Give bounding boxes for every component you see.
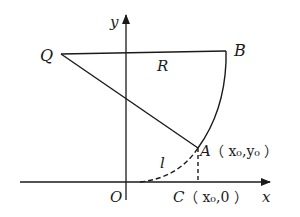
curve-l xyxy=(140,148,198,182)
segment-qa xyxy=(61,54,198,148)
y-axis-label: y xyxy=(109,13,119,31)
radius-label: R xyxy=(156,57,168,75)
origin-label: O xyxy=(110,188,122,206)
point-q-label: Q xyxy=(40,46,53,65)
arc-ba xyxy=(198,51,226,148)
curve-l-label: l xyxy=(160,154,165,172)
diagram-canvas: y x O Q B R A （ x₀,y₀ ） l C （ x₀,0 ） xyxy=(0,0,300,217)
x-axis-label: x xyxy=(262,188,271,206)
segment-qb xyxy=(61,51,226,54)
point-b-label: B xyxy=(233,41,246,60)
point-a-coords: （ x₀,y₀ ） xyxy=(210,143,278,159)
point-c-coords: （ x₀,0 ） xyxy=(184,189,248,205)
geometry-figure: y x O Q B R A （ x₀,y₀ ） l C （ x₀,0 ） xyxy=(0,0,300,217)
